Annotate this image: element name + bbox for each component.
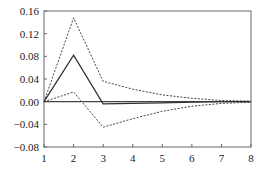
response-line (44, 55, 251, 104)
x-tick-label: 5 (160, 152, 166, 164)
plot-frame (44, 11, 251, 147)
x-tick-label: 6 (189, 152, 195, 164)
x-tick-label: 4 (130, 152, 136, 164)
y-axis: 0.160.120.080.040.00−0.04−0.08 (14, 5, 47, 153)
y-tick-label: −0.04 (14, 118, 40, 130)
lower-band-line (44, 92, 251, 127)
x-tick-label: 3 (100, 152, 106, 164)
y-tick-label: 0.12 (20, 28, 39, 40)
y-tick-label: 0.08 (20, 50, 40, 62)
x-tick-label: 7 (219, 152, 225, 164)
y-tick-label: 0.04 (20, 73, 40, 85)
y-tick-label: −0.08 (14, 141, 40, 153)
series-lines (44, 18, 251, 127)
y-tick-label: 0.16 (20, 5, 40, 17)
x-tick-label: 8 (248, 152, 254, 164)
x-tick-label: 1 (41, 152, 47, 164)
upper-band-line (44, 18, 251, 102)
x-tick-label: 2 (71, 152, 77, 164)
y-tick-label: 0.00 (20, 96, 40, 108)
impulse-response-chart: 0.160.120.080.040.00−0.04−0.08 12345678 (0, 0, 258, 172)
plot-border (44, 11, 251, 147)
